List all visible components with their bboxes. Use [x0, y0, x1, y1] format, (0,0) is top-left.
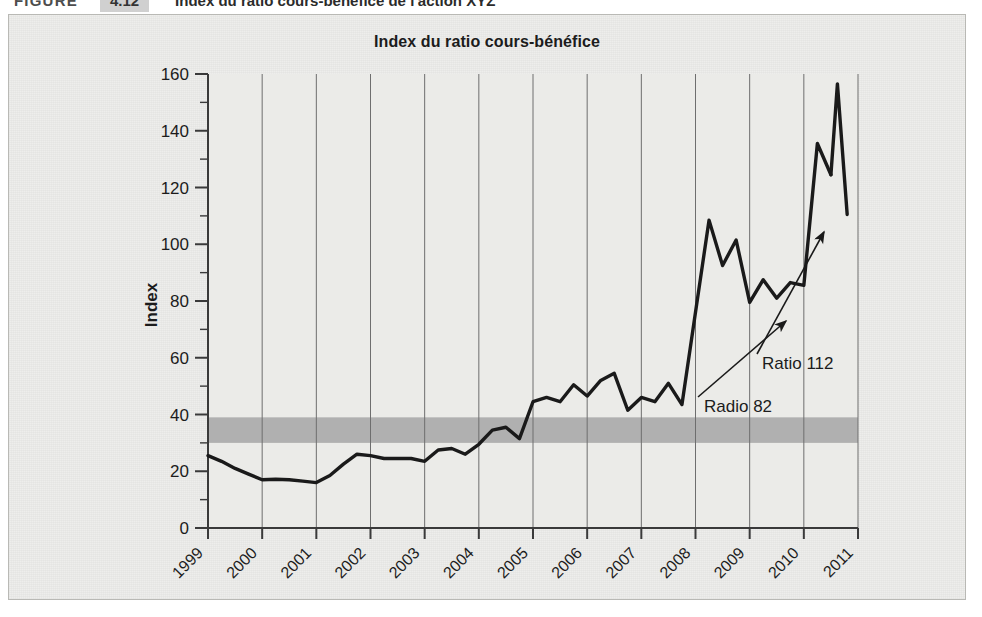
x-tick-label: 2010 — [765, 544, 802, 581]
x-tick-label: 2009 — [711, 544, 748, 581]
y-tick-label: 20 — [170, 462, 189, 481]
figure-caption-label: FIGURE — [14, 0, 78, 9]
x-tick-label: 2008 — [656, 544, 693, 581]
y-axis-title: Index — [142, 282, 161, 327]
figure-caption-number: 4.12 — [100, 0, 149, 12]
x-tick-label: 2007 — [602, 544, 639, 581]
x-tick-label: 2005 — [494, 544, 531, 581]
x-tick-label: 2002 — [331, 544, 368, 581]
y-tick-label: 160 — [161, 65, 189, 84]
annotation-label-ratio-112: Ratio 112 — [762, 354, 834, 373]
x-tick-label: 2000 — [223, 544, 260, 581]
x-tick-label: 1999 — [169, 544, 206, 581]
x-tick-label: 2004 — [440, 544, 477, 581]
y-tick-label: 100 — [161, 235, 189, 254]
y-tick-label: 60 — [170, 349, 189, 368]
annotation-label-radio-82: Radio 82 — [704, 397, 772, 416]
y-axis-ticks: 020406080100120140160 — [161, 65, 208, 538]
figure-panel: Index du ratio cours-bénéfice 0204060801… — [8, 14, 966, 600]
x-tick-label: 2006 — [548, 544, 585, 581]
y-tick-label: 40 — [170, 406, 189, 425]
figure-caption-strip: FIGURE 4.12 Index du ratio cours-bénéfic… — [0, 0, 982, 12]
x-tick-label: 2001 — [277, 544, 314, 581]
x-axis-ticks: 1999200020012002200320042005200620072008… — [169, 528, 858, 581]
figure-caption-title: Index du ratio cours-bénéfice de l'actio… — [175, 0, 495, 9]
y-tick-label: 140 — [161, 122, 189, 141]
line-chart: 020406080100120140160 199920002001200220… — [9, 15, 967, 601]
x-tick-label: 2011 — [820, 544, 856, 580]
y-tick-label: 120 — [161, 179, 189, 198]
y-tick-label: 0 — [180, 519, 189, 538]
y-tick-label: 80 — [170, 292, 189, 311]
x-tick-label: 2003 — [386, 544, 423, 581]
